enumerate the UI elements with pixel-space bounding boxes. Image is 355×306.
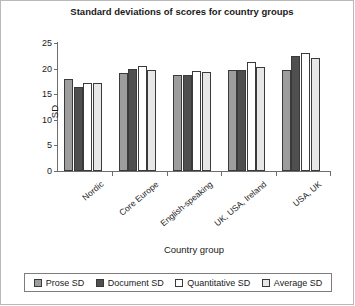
bar <box>128 69 137 171</box>
legend-label: Average SD <box>274 278 322 288</box>
bar-group <box>173 43 211 171</box>
x-tick-mark <box>221 171 222 176</box>
chart-legend: Prose SDDocument SDQuantitative SDAverag… <box>24 273 332 292</box>
legend-label: Quantitative SD <box>187 278 250 288</box>
y-tick-label: 25 <box>6 39 58 48</box>
x-axis-title: Country group <box>58 244 330 255</box>
legend-swatch-icon <box>262 279 270 287</box>
bar <box>192 71 201 171</box>
bar <box>291 56 300 171</box>
x-tick-label: Nordic <box>80 179 105 202</box>
chart-title: Standard deviations of scores for countr… <box>47 6 317 18</box>
y-tick-label: 5 <box>6 141 58 150</box>
x-tick-label: Core Europe <box>117 179 160 218</box>
bar <box>74 87 83 171</box>
bar-group <box>228 43 266 171</box>
bar-group <box>64 43 102 171</box>
x-tick-label: UK, USA, Ireland <box>213 179 269 228</box>
bar <box>256 67 265 171</box>
bar <box>202 72 211 171</box>
y-tick-mark <box>54 171 58 172</box>
y-tick-label: 10 <box>6 115 58 124</box>
x-tick-label: English-speaking <box>158 179 214 228</box>
y-tick-label: 15 <box>6 90 58 99</box>
bar <box>228 70 237 171</box>
bar <box>311 58 320 171</box>
x-tick-mark <box>112 171 113 176</box>
y-tick-label: 0 <box>6 167 58 176</box>
bar <box>301 53 310 171</box>
bar <box>64 79 73 171</box>
legend-swatch-icon <box>175 279 183 287</box>
legend-item[interactable]: Quantitative SD <box>175 278 250 288</box>
bar <box>237 70 246 171</box>
x-tick-mark <box>330 171 331 176</box>
legend-item[interactable]: Document SD <box>96 278 164 288</box>
y-tick-mark <box>54 94 58 95</box>
y-tick-mark <box>54 43 58 44</box>
legend-label: Document SD <box>108 278 164 288</box>
bar <box>83 83 92 171</box>
legend-item[interactable]: Average SD <box>262 278 322 288</box>
bar <box>93 83 102 171</box>
x-tick-mark <box>167 171 168 176</box>
chart-frame: Standard deviations of scores for countr… <box>0 0 354 305</box>
plot-area: SD 0510152025 NordicCore EuropeEnglish-s… <box>58 43 330 171</box>
legend-swatch-icon <box>96 279 104 287</box>
bar-group <box>119 43 157 171</box>
y-tick-mark <box>54 120 58 121</box>
bar <box>247 62 256 171</box>
x-tick-label: USA, UK <box>291 179 323 209</box>
legend-swatch-icon <box>34 279 42 287</box>
x-tick-mark <box>276 171 277 176</box>
legend-item[interactable]: Prose SD <box>34 278 85 288</box>
bar <box>282 70 291 171</box>
x-axis-line <box>57 171 331 172</box>
bar-group <box>282 43 320 171</box>
bar <box>173 75 182 171</box>
bar <box>119 73 128 171</box>
y-tick-mark <box>54 145 58 146</box>
y-tick-label: 20 <box>6 64 58 73</box>
legend-label: Prose SD <box>46 278 85 288</box>
bar <box>138 66 147 171</box>
bar <box>147 70 156 171</box>
bar <box>183 75 192 171</box>
y-tick-mark <box>54 69 58 70</box>
